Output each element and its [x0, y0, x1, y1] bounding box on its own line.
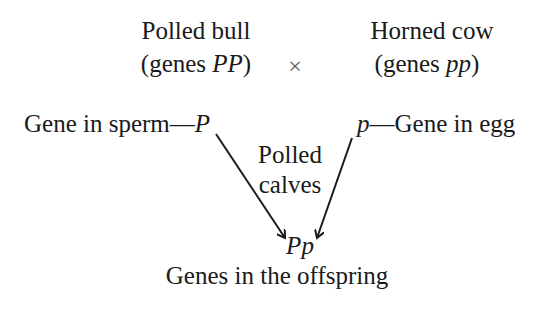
sperm-arrow	[216, 134, 285, 238]
offspring-label: Genes in the offspring	[166, 262, 388, 290]
egg-arrow	[317, 138, 352, 238]
offspring-genes: Pp	[286, 232, 314, 259]
offspring-genotype: Pp	[286, 232, 314, 260]
